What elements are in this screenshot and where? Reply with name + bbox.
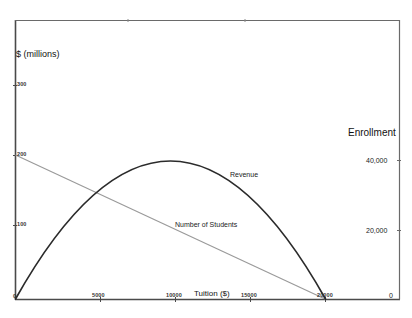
y-tick-label-200: 200 [17, 152, 26, 158]
y2-tick-label-40000: 40,000 [366, 157, 387, 164]
chart-plot-area [0, 0, 412, 318]
series-label-number-of-students: Number of Students [175, 221, 237, 228]
x-tick-label-10000: 10000 [166, 293, 182, 299]
x-tick-label-5000: 5000 [92, 293, 105, 299]
y2-tick-label-0: 0 [389, 292, 393, 299]
y2-tick-label-20000: 20,000 [366, 227, 387, 234]
series-curve-revenue [16, 161, 326, 299]
y-tick-label-100: 100 [17, 222, 26, 228]
x-tick-label-15000: 15000 [241, 293, 257, 299]
y2-axis-title: Enrollment [348, 128, 396, 138]
series-label-revenue: Revenue [230, 171, 258, 178]
x-tick-label-20000: 20000 [317, 293, 333, 299]
y-tick-label-0: 0 [13, 294, 16, 300]
y-axis-title: $ (millions) [16, 50, 60, 59]
chart-container: $ (millions) 300 200 100 0 5000 10000 15… [0, 0, 412, 318]
y-tick-label-300: 300 [17, 82, 26, 88]
x-axis-title: Tuition ($) [194, 290, 230, 298]
